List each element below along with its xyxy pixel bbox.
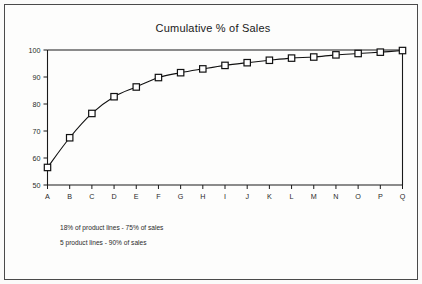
data-point-F (155, 74, 161, 80)
x-tick-label-G: G (178, 192, 184, 201)
data-point-L (288, 55, 294, 61)
y-tick-label-70: 70 (33, 127, 41, 136)
x-tick-label-J: J (245, 192, 249, 201)
y-tick-label-90: 90 (33, 73, 41, 82)
x-axis: ABCDEFGHIJKLMNOPQ (45, 50, 406, 201)
data-point-B (66, 135, 72, 141)
y-tick-label-60: 60 (33, 154, 41, 163)
x-tick-label-I: I (224, 192, 226, 201)
data-point-A (44, 164, 50, 170)
annotation-line-2: 5 product lines - 90% of sales (60, 239, 147, 247)
x-tick-label-N: N (333, 192, 338, 201)
data-point-C (89, 110, 95, 116)
x-tick-label-F: F (156, 192, 161, 201)
x-tick-label-K: K (267, 192, 272, 201)
data-point-Q (399, 47, 405, 53)
data-point-G (177, 69, 183, 75)
data-point-J (244, 59, 250, 65)
chart-annotations: 18% of product lines - 75% of sales 5 pr… (60, 224, 164, 247)
x-tick-label-P: P (378, 192, 383, 201)
x-tick-label-A: A (45, 192, 50, 201)
data-point-D (111, 94, 117, 100)
data-point-E (133, 84, 139, 90)
chart-figure: Cumulative % of Sales 5060708090100 ABCD… (0, 0, 422, 284)
x-tick-label-Q: Q (400, 192, 406, 201)
x-tick-marks (48, 185, 403, 189)
data-point-N (333, 52, 339, 58)
data-point-M (311, 54, 317, 60)
x-tick-label-D: D (111, 192, 116, 201)
cumulative-sales-chart: Cumulative % of Sales 5060708090100 ABCD… (0, 0, 422, 284)
x-tick-label-H: H (200, 192, 205, 201)
data-point-markers (44, 47, 405, 170)
x-tick-label-E: E (134, 192, 139, 201)
data-point-I (222, 62, 228, 68)
x-tick-label-O: O (355, 192, 361, 201)
y-tick-label-50: 50 (33, 181, 41, 190)
data-point-O (355, 50, 361, 56)
y-tick-label-80: 80 (33, 100, 41, 109)
chart-title: Cumulative % of Sales (156, 22, 271, 34)
x-tick-label-L: L (290, 192, 294, 201)
x-tick-label-B: B (67, 192, 72, 201)
data-point-K (266, 57, 272, 63)
data-point-P (377, 49, 383, 55)
annotation-line-1: 18% of product lines - 75% of sales (60, 224, 164, 232)
data-series (44, 47, 405, 170)
y-tick-labels: 5060708090100 (29, 46, 41, 190)
x-tick-label-C: C (89, 192, 94, 201)
y-tick-label-100: 100 (29, 46, 41, 55)
x-tick-label-M: M (311, 192, 317, 201)
data-point-H (200, 66, 206, 72)
x-tick-labels: ABCDEFGHIJKLMNOPQ (45, 192, 406, 201)
